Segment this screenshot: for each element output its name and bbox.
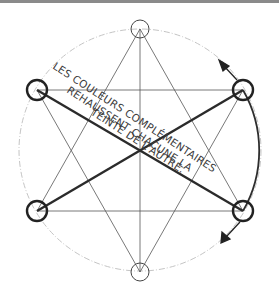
wheel-right-arc: [243, 90, 259, 211]
complementary-colors-diagram: LES COULEURS COMPLÉMENTAIRES REHAUSSENT …: [0, 0, 279, 299]
arrow-bottom-shaft: [226, 222, 240, 237]
rotation-arrows: [219, 60, 240, 243]
caption-line-1: LES COULEURS COMPLÉMENTAIRES: [51, 60, 219, 175]
caption: LES COULEURS COMPLÉMENTAIRES: [51, 60, 219, 175]
